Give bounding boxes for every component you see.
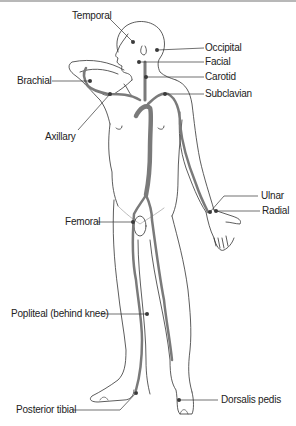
label-ulnar: Ulnar bbox=[261, 190, 284, 202]
pulse-point-posterior-tibial bbox=[134, 391, 138, 395]
pulse-point-ulnar bbox=[208, 210, 212, 214]
pulse-point-radial bbox=[214, 209, 218, 213]
pulse-point-dorsalis-pedis bbox=[177, 398, 181, 402]
label-posterior-tibial: Posterior tibial bbox=[16, 404, 76, 416]
pulse-point-popliteal bbox=[145, 312, 149, 316]
label-dorsalis-pedis: Dorsalis pedis bbox=[221, 394, 281, 406]
label-femoral: Femoral bbox=[65, 216, 100, 228]
label-popliteal: Popliteal (behind knee) bbox=[11, 308, 109, 320]
pulse-point-femoral bbox=[131, 220, 135, 224]
pulse-point-subclavian bbox=[163, 92, 167, 96]
pulse-point-facial bbox=[137, 60, 141, 64]
label-carotid: Carotid bbox=[205, 71, 236, 83]
label-facial: Facial bbox=[205, 56, 230, 68]
label-axillary: Axillary bbox=[45, 131, 76, 143]
label-temporal: Temporal bbox=[72, 10, 112, 22]
label-radial: Radial bbox=[262, 205, 289, 217]
label-subclavian: Subclavian bbox=[205, 88, 252, 100]
pulse-point-axillary bbox=[108, 92, 112, 96]
pulse-point-carotid bbox=[144, 75, 148, 79]
body-diagram bbox=[0, 0, 296, 426]
pulse-point-brachial bbox=[88, 79, 92, 83]
pulse-point-temporal bbox=[131, 40, 135, 44]
pulse-point-occipital bbox=[155, 48, 159, 52]
label-occipital: Occipital bbox=[205, 42, 242, 54]
label-brachial: Brachial bbox=[17, 75, 52, 87]
